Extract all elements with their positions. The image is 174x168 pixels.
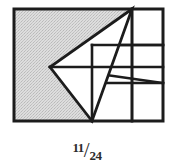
fraction-figure: 11/24 <box>0 0 174 168</box>
fraction-slash: / <box>84 138 90 162</box>
fraction-numerator: 11 <box>72 140 83 155</box>
fraction-denominator: 24 <box>90 148 102 163</box>
fraction: 11/24 <box>72 139 101 160</box>
fraction-caption: 11/24 <box>0 132 174 166</box>
